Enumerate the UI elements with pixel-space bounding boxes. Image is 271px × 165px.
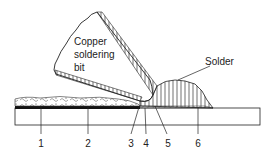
oxide-layer: [15, 106, 140, 109]
callout-4: 4: [143, 138, 149, 149]
flux-layer: [15, 97, 140, 107]
solder-leader: [178, 66, 210, 80]
callout-1: 1: [38, 138, 44, 149]
bit-label-line3: bit: [74, 62, 85, 73]
callout-5: 5: [165, 138, 171, 149]
solder-label: Solder: [205, 56, 235, 67]
callout-6: 6: [195, 138, 201, 149]
callout-2: 2: [85, 138, 91, 149]
bit-label-line2: soldering: [74, 49, 115, 60]
bit-label-line1: Copper: [74, 36, 107, 47]
base-metal: [15, 108, 260, 125]
soldering-diagram: Copper soldering bit Solder 1 2 3 4 5 6: [0, 0, 271, 165]
callout-3: 3: [128, 138, 134, 149]
